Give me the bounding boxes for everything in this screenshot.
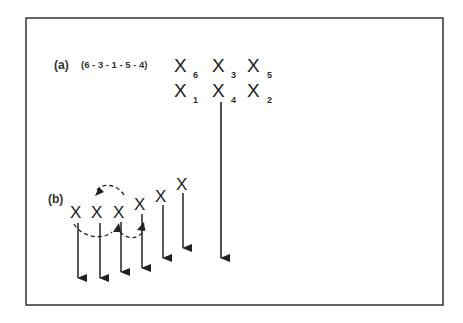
arrowhead-icon (95, 187, 104, 196)
grid-subscript: 5 (267, 70, 272, 80)
grid-x: X (174, 55, 187, 76)
grid-x: X (174, 80, 187, 101)
grid-x: X (247, 80, 260, 101)
row-x: X (113, 203, 124, 222)
arrowhead-icon (113, 223, 121, 232)
row-x: X (176, 175, 187, 194)
dashed-arc-bottom-left (74, 224, 112, 237)
grid-subscript: 4 (231, 95, 236, 105)
row-x: X (155, 187, 166, 206)
grid-x: X (247, 55, 260, 76)
grid-x: X (212, 80, 225, 101)
player-row: X X X X X X (70, 175, 187, 222)
diagram-canvas: (a) (6 - 3 - 1 - 5 - 4) X 6 X 3 X 5 X 1 … (0, 0, 463, 323)
panel-b-label: (b) (48, 192, 63, 206)
grid-x: X (212, 55, 225, 76)
row-x: X (134, 195, 145, 214)
grid-subscript: 2 (267, 95, 272, 105)
sequence-text: (6 - 3 - 1 - 5 - 4) (81, 59, 148, 70)
position-grid: X 6 X 3 X 5 X 1 X 4 X 2 (174, 55, 272, 105)
arrowhead-icon (137, 222, 145, 231)
grid-subscript: 1 (193, 95, 198, 105)
row-x: X (70, 203, 81, 222)
grid-subscript: 6 (193, 70, 198, 80)
grid-subscript: 3 (231, 70, 236, 80)
row-x: X (91, 203, 102, 222)
panel-a-label: (a) (54, 58, 69, 72)
